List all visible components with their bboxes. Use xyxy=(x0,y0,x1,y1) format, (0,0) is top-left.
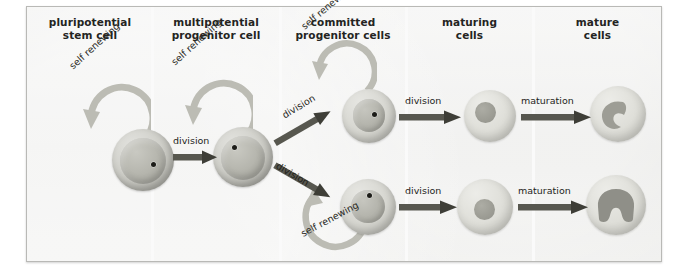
diagram-panel: pluripotential stem cell multipotential … xyxy=(26,6,662,262)
cell-maturing-bottom xyxy=(457,179,513,235)
column-header-line2: progenitor cells xyxy=(281,29,405,42)
column-header-pluripotential-stem-cell: pluripotential stem cell xyxy=(29,16,151,42)
arrow-label-division-committed-top: division xyxy=(405,95,441,106)
nucleolus-committed-progenitor-bottom xyxy=(367,193,372,198)
arrow-division-stem-to-multipotential xyxy=(173,149,217,165)
column-header-line2: cells xyxy=(407,29,532,42)
cell-committed-progenitor-top xyxy=(342,89,396,143)
cell-mature-bottom xyxy=(586,175,646,235)
column-header-line1: mature xyxy=(534,16,661,29)
cell-multipotential-progenitor xyxy=(213,127,273,187)
column-divider-3 xyxy=(405,7,408,261)
cell-membrane xyxy=(457,179,513,235)
arrow-label-maturation-bottom: maturation xyxy=(518,185,571,196)
cell-pluripotential-stem-cell xyxy=(112,129,174,191)
cell-membrane xyxy=(112,129,174,191)
nucleus-kidney-shape xyxy=(590,86,646,142)
arrow-division-committed-to-maturing-bottom xyxy=(399,199,457,215)
cell-nucleus xyxy=(353,99,385,131)
nucleolus-committed-progenitor-top xyxy=(372,112,377,117)
cell-maturing-top xyxy=(464,90,516,142)
cell-nucleus xyxy=(120,138,166,184)
column-header-line1: maturing xyxy=(407,16,532,29)
cell-membrane xyxy=(342,89,396,143)
cell-nucleus xyxy=(475,102,496,123)
arrow-division-committed-to-maturing-top xyxy=(399,109,461,125)
arrow-maturation-top xyxy=(521,109,591,125)
column-header-maturing-cells: maturing cells xyxy=(407,16,532,42)
cell-membrane xyxy=(213,127,273,187)
nucleolus-stem-cell xyxy=(151,162,156,167)
column-divider-4 xyxy=(532,7,535,261)
column-header-committed-progenitor-cells: committed progenitor cells xyxy=(281,16,405,42)
cell-mature-top xyxy=(590,86,646,142)
column-header-mature-cells: mature cells xyxy=(534,16,661,42)
cell-differentiation-figure: pluripotential stem cell multipotential … xyxy=(0,0,690,274)
arrow-maturation-bottom xyxy=(518,199,588,215)
column-header-line2: cells xyxy=(534,29,661,42)
arrow-label-division-committed-bottom: division xyxy=(405,185,441,196)
arrow-label-maturation-top: maturation xyxy=(521,95,574,106)
cell-membrane xyxy=(464,90,516,142)
nucleolus-multipotential-progenitor xyxy=(232,145,237,150)
arrow-label-division-stem: division xyxy=(173,135,209,146)
column-header-line1: pluripotential xyxy=(29,16,151,29)
cell-nucleus xyxy=(474,199,495,220)
cell-nucleus xyxy=(221,136,265,180)
nucleus-horseshoe-shape xyxy=(586,175,646,235)
column-header-line2: stem cell xyxy=(29,29,151,42)
